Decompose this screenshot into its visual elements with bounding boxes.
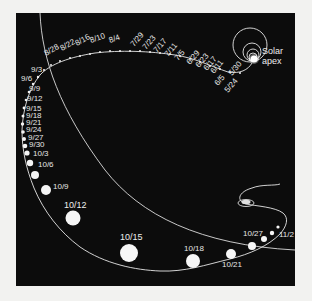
date-label: 10/12 bbox=[64, 200, 87, 210]
date-label: 9/6 bbox=[21, 74, 33, 83]
trajectory-diagram: Solar apex bbox=[0, 0, 312, 301]
date-label: 9/9 bbox=[29, 84, 41, 93]
date-label: 10/27 bbox=[243, 229, 264, 238]
date-label: 10/6 bbox=[38, 160, 54, 169]
date-label: 10/9 bbox=[53, 182, 69, 191]
date-label: 9/3 bbox=[31, 65, 43, 74]
date-label: 11/2 bbox=[279, 230, 295, 239]
solar-apex-label-line1: Solar bbox=[262, 46, 283, 56]
date-label: 10/15 bbox=[120, 232, 143, 242]
date-label: 9/12 bbox=[27, 94, 43, 103]
date-label: 10/3 bbox=[33, 149, 49, 158]
date-label: 10/18 bbox=[184, 244, 205, 253]
solar-apex-label-line2: apex bbox=[262, 56, 282, 66]
date-label: 10/21 bbox=[222, 260, 243, 269]
date-label: 9/30 bbox=[29, 140, 45, 149]
